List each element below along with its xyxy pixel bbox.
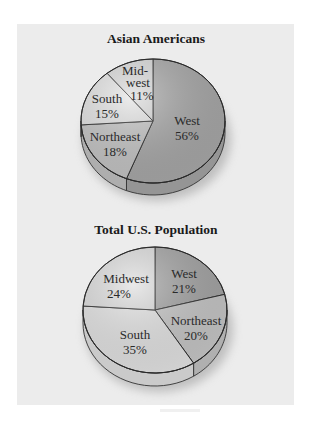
label-south-value: 15% (95, 106, 119, 121)
label-northeast-value: 18% (103, 144, 127, 159)
label-west-value: 56% (175, 128, 199, 143)
label-south: South (92, 91, 123, 106)
label-midwest-value: 24% (107, 286, 131, 301)
label-west: West (174, 113, 200, 128)
pie-gloss (81, 59, 225, 183)
pie-gloss (83, 247, 227, 373)
label-west-value: 21% (172, 281, 196, 296)
pie-charts: West 56% Northeast 18% South 15% Mid- we… (0, 0, 312, 422)
label-midwest-value: 11% (130, 88, 154, 103)
label-northeast: Northeast (171, 313, 222, 328)
label-northeast-value: 20% (184, 328, 208, 343)
label-northeast: Northeast (90, 129, 141, 144)
label-midwest: Midwest (103, 271, 149, 286)
label-west: West (171, 266, 197, 281)
label-south-value: 35% (123, 342, 147, 357)
label-south: South (120, 327, 151, 342)
footer-mark (160, 409, 200, 412)
